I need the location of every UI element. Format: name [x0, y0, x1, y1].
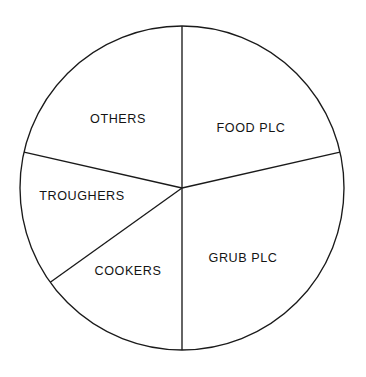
pie-chart-figure: FOOD PLCGRUB PLCCOOKERSTROUGHERSOTHERS [0, 0, 366, 377]
pie-slice-label-cookers: COOKERS [95, 264, 162, 278]
pie-slice-label-grub-plc: GRUB PLC [209, 251, 278, 265]
pie-slice-label-others: OTHERS [90, 112, 146, 126]
pie-slice-label-troughers: TROUGHERS [39, 189, 124, 203]
pie-chart-canvas: FOOD PLCGRUB PLCCOOKERSTROUGHERSOTHERS [0, 0, 366, 377]
pie-slice-label-food-plc: FOOD PLC [217, 121, 286, 135]
